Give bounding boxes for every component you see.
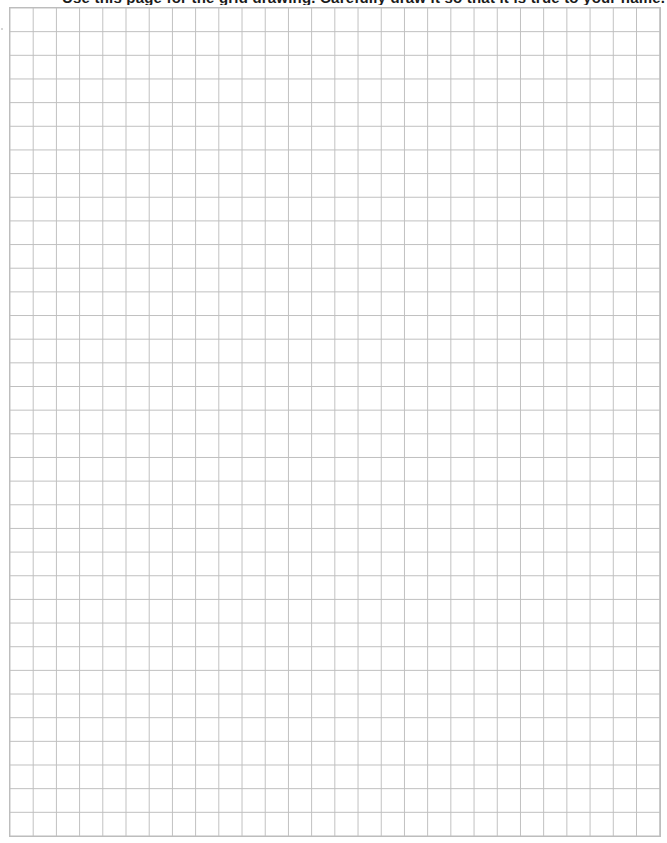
graph-paper-grid bbox=[9, 7, 661, 837]
instruction-text: Use this page for the grid drawing. Care… bbox=[62, 0, 665, 5]
margin-mark bbox=[1, 28, 3, 30]
